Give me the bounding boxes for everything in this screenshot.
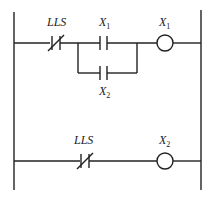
rung-1-coil-label: X1 <box>158 15 170 31</box>
rung-2-coil-x2 <box>157 153 173 169</box>
rung-2-coil-label: X2 <box>158 133 170 149</box>
rung-1-lls-label: LLS <box>46 15 66 29</box>
ladder-diagram: LLS X1 X1 X2 LLS X2 <box>0 0 214 200</box>
rung-1-x2-contact-label: X2 <box>98 84 110 100</box>
rung-1-coil-x1 <box>157 35 173 51</box>
rung-1: LLS X1 X1 X2 <box>14 15 201 100</box>
rung-2-lls-label: LLS <box>73 133 93 147</box>
rung-1-x1-contact-label: X1 <box>98 15 110 31</box>
rung-1-x1-no-contact <box>100 36 107 50</box>
rung-2: LLS X2 <box>14 133 201 169</box>
